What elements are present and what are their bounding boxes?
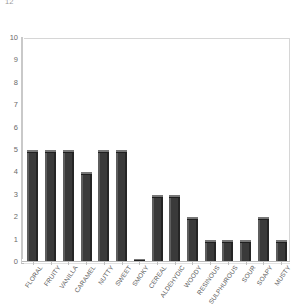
bar: [276, 240, 287, 262]
x-tick-mark: [68, 262, 69, 265]
bar: [258, 217, 269, 262]
bar-top-cap: [222, 240, 233, 243]
bar-top-cap: [187, 217, 198, 220]
bar-top-cap: [276, 240, 287, 243]
bar-top-cap: [205, 240, 216, 243]
bar: [27, 150, 38, 262]
bar-top-cap: [240, 240, 251, 243]
x-tick-mark: [157, 262, 158, 265]
y-tick-label: 7: [0, 101, 18, 109]
y-axis-spine: [21, 37, 23, 263]
bar-top-cap: [258, 217, 269, 220]
bar-chart: 12 109876543210 FLORALFRUITYVANILLACARAM…: [0, 0, 294, 308]
x-tick-mark: [104, 262, 105, 265]
x-tick-mark: [51, 262, 52, 265]
y-tick-label: 10: [0, 34, 18, 42]
x-axis-label: MUSTY: [273, 264, 292, 287]
bar-top-cap: [169, 195, 180, 198]
bar: [187, 217, 198, 262]
bar: [240, 240, 251, 262]
bar-top-cap: [152, 195, 163, 198]
y-tick-label: 5: [0, 146, 18, 154]
y-tick-label: 6: [0, 124, 18, 132]
bar-top-cap: [116, 150, 127, 153]
bar-top-cap: [63, 150, 74, 153]
bar-top-cap: [45, 150, 56, 153]
y-tick-label: 3: [0, 191, 18, 199]
bar-top-cap: [27, 150, 38, 153]
bar: [152, 195, 163, 262]
bar: [63, 150, 74, 262]
y-axis: 109876543210: [0, 14, 20, 266]
bar: [205, 240, 216, 262]
bar-top-cap: [134, 259, 145, 261]
x-axis-baseline: [22, 261, 290, 262]
bar: [98, 150, 109, 262]
clipped-top-tick-label: 12: [5, 0, 13, 6]
x-axis-label: NUTTY: [96, 264, 114, 286]
x-tick-mark: [192, 262, 193, 265]
bar: [169, 195, 180, 262]
bar-top-cap: [98, 150, 109, 153]
y-tick-label: 8: [0, 79, 18, 87]
x-axis-label: FLORAL: [23, 264, 43, 289]
x-tick-mark: [175, 262, 176, 265]
x-tick-mark: [86, 262, 87, 265]
bar: [222, 240, 233, 262]
y-tick-label: 4: [0, 168, 18, 176]
x-tick-mark: [210, 262, 211, 265]
x-tick-mark: [228, 262, 229, 265]
bar-top-cap: [81, 172, 92, 175]
bars-container: [24, 38, 290, 262]
x-axis-label: SWEET: [113, 264, 132, 287]
bar: [45, 150, 56, 262]
bar: [81, 172, 92, 262]
x-axis-label: SOUR: [240, 264, 257, 283]
y-tick-label: 2: [0, 213, 18, 221]
x-tick-mark: [122, 262, 123, 265]
x-tick-mark: [33, 262, 34, 265]
x-tick-mark: [246, 262, 247, 265]
x-axis-labels: FLORALFRUITYVANILLACARAMELNUTTYSWEETSMOK…: [0, 264, 294, 308]
bar: [116, 150, 127, 262]
x-tick-mark: [263, 262, 264, 265]
x-axis-label: SOAPY: [255, 264, 274, 286]
x-tick-mark: [281, 262, 282, 265]
y-tick-label: 9: [0, 56, 18, 64]
y-tick-label: 1: [0, 236, 18, 244]
x-tick-mark: [139, 262, 140, 265]
